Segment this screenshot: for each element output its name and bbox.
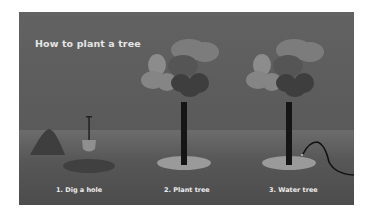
tree-icon — [141, 39, 219, 170]
dirt-mound-icon — [30, 129, 65, 155]
shovel-icon — [82, 116, 96, 152]
illustration-panel: How to plant a tree — [19, 12, 354, 205]
step-1-caption: 1. Dig a hole — [56, 186, 102, 194]
tree-icon — [246, 39, 324, 170]
step-3-caption: 3. Water tree — [269, 186, 318, 194]
scene-illustration — [19, 12, 354, 205]
step-2-caption: 2. Plant tree — [164, 186, 210, 194]
hole-icon — [63, 159, 115, 173]
